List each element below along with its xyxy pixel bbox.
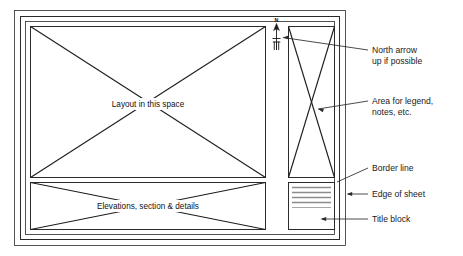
- callout-legend-area-line1: Area for legend,: [372, 96, 433, 106]
- elevations-zone-label: Elevations, section & details: [97, 202, 199, 211]
- diagram-canvas: Layout in this space Layout in this spac…: [0, 0, 463, 256]
- callout-legend-area: Area for legend, notes, etc.: [372, 96, 433, 117]
- callout-border-line-text: Border line: [372, 163, 414, 173]
- legend-zone-cross-icon: [289, 27, 335, 178]
- callout-border-line: Border line: [372, 163, 414, 173]
- north-arrow-letter: N: [275, 17, 279, 23]
- leader-title-block: [321, 217, 369, 221]
- leader-north-arrow: [283, 36, 368, 50]
- north-arrow-icon: [273, 24, 281, 51]
- title-block-ruled-lines: [292, 188, 331, 208]
- sheet-layout-diagram: Layout in this space Layout in this spac…: [0, 0, 463, 256]
- callout-legend-area-line2: notes, etc.: [372, 107, 412, 117]
- leader-legend-area: [318, 101, 368, 112]
- callout-north-arrow-line2: up if possible: [372, 56, 422, 66]
- callout-title-block-text: Title block: [372, 214, 411, 224]
- leader-edge-of-sheet: [347, 192, 369, 196]
- leader-border-line: [337, 168, 368, 182]
- title-block-rect: [289, 183, 335, 230]
- callout-north-arrow: North arrow up if possible: [372, 45, 422, 66]
- callout-edge-of-sheet: Edge of sheet: [372, 189, 426, 199]
- layout-zone-label-text: Layout in this space: [112, 100, 185, 109]
- callout-north-arrow-line1: North arrow: [372, 45, 418, 55]
- callout-edge-of-sheet-text: Edge of sheet: [372, 189, 426, 199]
- callout-title-block: Title block: [372, 214, 411, 224]
